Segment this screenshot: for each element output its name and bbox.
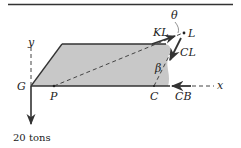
label-CB: CB <box>175 90 192 103</box>
label-y: y <box>27 36 35 49</box>
label-CL: CL <box>180 46 196 59</box>
label-theta: θ <box>171 9 178 22</box>
point-P <box>53 85 56 88</box>
label-KL: KL <box>152 26 169 39</box>
label-beta: β <box>154 62 161 75</box>
label-G: G <box>17 80 26 93</box>
body-shape <box>31 44 171 86</box>
point-C <box>153 85 155 87</box>
label-L: L <box>187 27 195 40</box>
point-L <box>183 32 186 35</box>
label-C: C <box>150 90 159 103</box>
theta-arc <box>175 22 179 33</box>
label-x: x <box>217 79 224 92</box>
free-body-diagram: θ L KL CL β y G P C CB x 20 tons <box>0 0 241 148</box>
label-load: 20 tons <box>13 132 51 143</box>
label-P: P <box>49 90 58 103</box>
